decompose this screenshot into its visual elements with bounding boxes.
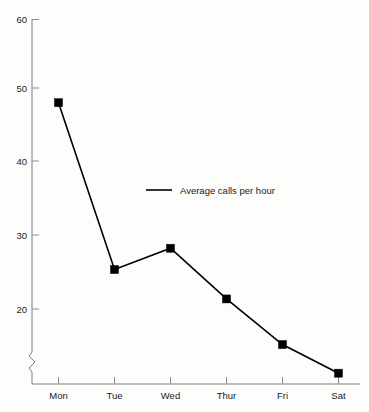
x-tick-label-mon: Mon bbox=[49, 390, 67, 401]
data-point-sat bbox=[335, 369, 343, 377]
y-tick-label-60: 60 bbox=[16, 14, 27, 25]
chart-container: 60 50 40 30 20 Mon Tue Wed Thur Fri Sat bbox=[0, 0, 369, 412]
line-chart: 60 50 40 30 20 Mon Tue Wed Thur Fri Sat bbox=[0, 0, 369, 412]
y-tick-label-50: 50 bbox=[16, 83, 27, 94]
x-tick-label-tue: Tue bbox=[106, 390, 122, 401]
x-tick-label-fri: Fri bbox=[277, 390, 288, 401]
x-tick-label-thur: Thur bbox=[217, 390, 237, 401]
y-tick-label-30: 30 bbox=[16, 230, 27, 241]
data-point-thur bbox=[223, 295, 231, 303]
data-point-wed bbox=[167, 244, 175, 252]
x-tick-label-wed: Wed bbox=[161, 390, 180, 401]
data-point-tue bbox=[111, 266, 119, 274]
y-tick-label-20: 20 bbox=[16, 304, 27, 315]
y-tick-label-40: 40 bbox=[16, 156, 27, 167]
data-point-fri bbox=[279, 341, 287, 349]
legend-label-average-calls-per-hour: Average calls per hour bbox=[180, 185, 275, 196]
chart-background bbox=[0, 0, 369, 412]
x-tick-label-sat: Sat bbox=[331, 390, 346, 401]
data-point-mon bbox=[55, 99, 63, 107]
